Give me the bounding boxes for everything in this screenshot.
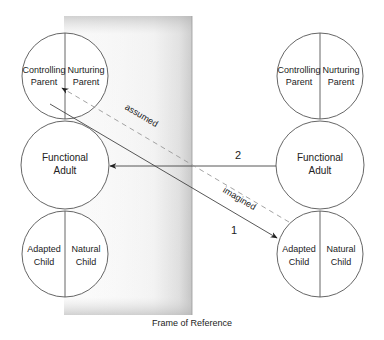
right-parent-circle: Controlling Parent Nurturing Parent [277, 33, 363, 119]
left-nurturing-label: Nurturing [67, 65, 104, 75]
left-adapted-sub: Child [34, 257, 55, 267]
transaction-2-label: 2 [235, 149, 241, 161]
left-natural-sub: Child [76, 257, 97, 267]
ego-state-diagram: Frame of Reference Controlling Parent Nu… [0, 0, 384, 340]
right-child-circle: Adapted Child Natural Child [277, 211, 363, 297]
right-nurturing-sub: Parent [328, 77, 355, 87]
right-nurturing-label: Nurturing [322, 65, 359, 75]
left-parent-circle: Controlling Parent Nurturing Parent [22, 33, 108, 119]
right-adapted-sub: Child [289, 257, 310, 267]
right-natural-sub: Child [331, 257, 352, 267]
right-ego-state: Controlling Parent Nurturing Parent Func… [276, 33, 364, 297]
left-natural-label: Natural [71, 244, 100, 254]
left-adult-circle: Functional Adult [21, 121, 109, 209]
left-controlling-label: Controlling [22, 65, 65, 75]
left-controlling-sub: Parent [31, 77, 58, 87]
frame-label: Frame of Reference [152, 318, 232, 328]
right-controlling-label: Controlling [277, 65, 320, 75]
right-adapted-label: Adapted [282, 244, 316, 254]
right-adult-sub: Adult [309, 165, 332, 176]
left-adult-label: Functional [42, 152, 88, 163]
left-adult-sub: Adult [54, 165, 77, 176]
left-child-circle: Adapted Child Natural Child [22, 211, 108, 297]
left-adapted-label: Adapted [27, 244, 61, 254]
left-nurturing-sub: Parent [73, 77, 100, 87]
right-controlling-sub: Parent [286, 77, 313, 87]
right-natural-label: Natural [326, 244, 355, 254]
right-adult-circle: Functional Adult [276, 121, 364, 209]
left-ego-state: Controlling Parent Nurturing Parent Func… [21, 33, 109, 297]
right-adult-label: Functional [297, 152, 343, 163]
transaction-1-label: 1 [231, 224, 237, 236]
